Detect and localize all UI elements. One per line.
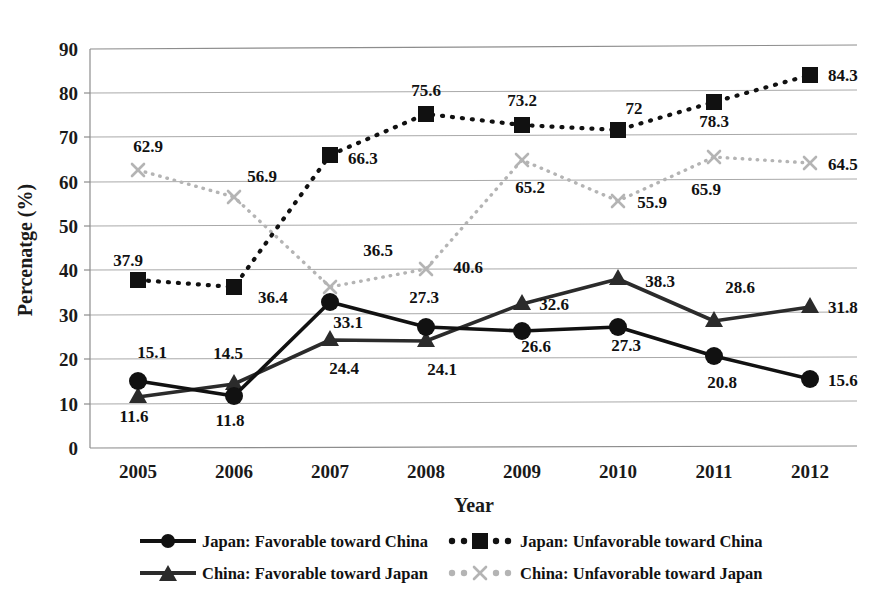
data-label: 11.6 bbox=[120, 407, 149, 426]
data-label: 32.6 bbox=[539, 295, 569, 314]
legend-item-japan-favorable-toward-china[interactable]: Japan: Favorable toward China bbox=[140, 532, 428, 551]
legend-item-china-unfavorable-toward-japan[interactable]: China: Unfavorable toward Japan bbox=[449, 564, 763, 583]
data-label: 72 bbox=[626, 99, 643, 118]
data-label: 55.9 bbox=[637, 193, 667, 212]
y-tick-label: 40 bbox=[59, 260, 78, 281]
gridline-30 bbox=[90, 312, 857, 315]
data-label: 20.8 bbox=[707, 373, 737, 392]
data-label: 40.6 bbox=[453, 258, 483, 277]
data-labels-japan-unfavorable: 37.9 36.4 66.3 75.6 73.2 72 78.3 84.3 bbox=[113, 66, 858, 307]
legend-label: Japan: Favorable toward China bbox=[202, 532, 428, 551]
gridline-0 bbox=[90, 446, 857, 448]
x-tick-label: 2011 bbox=[696, 461, 733, 482]
x-tick-label: 2012 bbox=[791, 461, 829, 482]
data-label: 73.2 bbox=[507, 91, 537, 110]
data-label: 78.3 bbox=[699, 112, 729, 131]
data-label: 36.5 bbox=[363, 241, 393, 260]
x-tick-label: 2005 bbox=[119, 461, 157, 482]
data-label: 28.6 bbox=[725, 278, 755, 297]
chart-legend: Japan: Favorable toward China Japan: Unf… bbox=[140, 532, 762, 583]
gridline-90 bbox=[90, 45, 857, 49]
y-tick-label: 80 bbox=[59, 83, 78, 104]
legend-label: China: Favorable toward Japan bbox=[202, 564, 428, 583]
data-label: 24.1 bbox=[427, 360, 457, 379]
data-label: 31.8 bbox=[828, 298, 858, 317]
x-tick-label: 2009 bbox=[503, 461, 541, 482]
x-axis-tick-labels: 2005 2006 2007 2008 2009 2010 2011 2012 bbox=[119, 461, 829, 482]
data-label: 62.9 bbox=[133, 137, 163, 156]
x-cross-marker-icon bbox=[474, 567, 486, 579]
legend-label: China: Unfavorable toward Japan bbox=[520, 564, 762, 583]
y-tick-label: 60 bbox=[59, 172, 78, 193]
data-label: 26.6 bbox=[521, 337, 551, 356]
y-tick-label: 20 bbox=[59, 349, 78, 370]
y-tick-label: 10 bbox=[59, 394, 78, 415]
y-tick-label: 30 bbox=[59, 305, 78, 326]
data-label: 65.9 bbox=[691, 180, 721, 199]
gridline-80 bbox=[90, 90, 857, 93]
data-label: 64.5 bbox=[828, 155, 858, 174]
x-tick-label: 2006 bbox=[215, 461, 253, 482]
data-label: 11.8 bbox=[216, 411, 245, 430]
chart-canvas: 90 80 70 60 50 40 30 20 10 0 Percenatge … bbox=[0, 0, 888, 616]
x-tick-label: 2008 bbox=[407, 461, 445, 482]
legend-item-china-favorable-toward-japan[interactable]: China: Favorable toward Japan bbox=[140, 564, 428, 583]
x-tick-label: 2010 bbox=[599, 461, 637, 482]
gridline-20 bbox=[90, 357, 857, 359]
y-tick-label: 0 bbox=[69, 438, 79, 459]
data-label: 38.3 bbox=[645, 272, 675, 291]
data-label: 27.3 bbox=[409, 288, 439, 307]
legend-item-japan-unfavorable-toward-china[interactable]: Japan: Unfavorable toward China bbox=[449, 532, 763, 551]
y-axis-tick-labels: 90 80 70 60 50 40 30 20 10 0 bbox=[59, 39, 78, 459]
x-tick-label: 2007 bbox=[311, 461, 350, 482]
y-tick-label: 90 bbox=[59, 39, 78, 60]
chart-figure: 90 80 70 60 50 40 30 20 10 0 Percenatge … bbox=[0, 0, 888, 616]
data-label: 33.1 bbox=[333, 313, 363, 332]
x-axis-title: Year bbox=[454, 494, 494, 516]
y-tick-label: 50 bbox=[59, 216, 78, 237]
legend-label: Japan: Unfavorable toward China bbox=[520, 532, 762, 551]
y-tick-label: 70 bbox=[59, 127, 78, 148]
data-label: 66.3 bbox=[348, 149, 378, 168]
gridline-50 bbox=[90, 223, 857, 226]
data-label: 14.5 bbox=[213, 344, 243, 363]
y-tick-marks bbox=[84, 93, 90, 404]
data-label: 37.9 bbox=[113, 251, 143, 270]
data-label: 15.6 bbox=[828, 371, 858, 390]
data-label: 84.3 bbox=[828, 66, 858, 85]
gridline-70 bbox=[90, 134, 857, 137]
data-label: 27.3 bbox=[611, 336, 641, 355]
square-marker-icon bbox=[472, 533, 488, 549]
data-label: 15.1 bbox=[137, 343, 167, 362]
y-axis-title: Percenatge (%) bbox=[14, 184, 37, 316]
gridline-10 bbox=[90, 401, 857, 404]
data-label: 24.4 bbox=[329, 359, 359, 378]
data-label: 75.6 bbox=[411, 81, 441, 100]
circle-marker-icon bbox=[161, 534, 175, 548]
data-label: 65.2 bbox=[515, 178, 545, 197]
data-label: 36.4 bbox=[258, 288, 288, 307]
data-label: 56.9 bbox=[247, 167, 277, 186]
gridline-60 bbox=[90, 179, 857, 182]
